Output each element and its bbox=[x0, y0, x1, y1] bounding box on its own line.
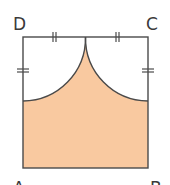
square-diagram: D C A B bbox=[0, 0, 170, 185]
shaded-region bbox=[23, 37, 148, 168]
vertex-label-d: D bbox=[13, 14, 26, 34]
vertex-label-c: C bbox=[146, 14, 158, 34]
vertex-label-b: B bbox=[150, 178, 162, 185]
vertex-label-a: A bbox=[13, 178, 25, 185]
